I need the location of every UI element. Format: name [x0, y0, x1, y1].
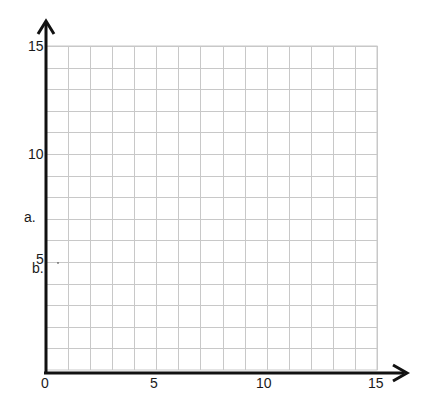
stray-mark [57, 262, 59, 264]
x-tick-15: 15 [368, 376, 384, 390]
annotation-a: a. [24, 210, 36, 224]
x-tick-10: 10 [256, 376, 272, 390]
y-tick-10: 10 [28, 147, 44, 161]
coordinate-grid-chart [0, 0, 426, 408]
grid-lines [46, 46, 378, 370]
y-tick-15: 15 [28, 39, 44, 53]
annotation-b: b. [32, 261, 44, 275]
grid-border [46, 46, 377, 370]
x-tick-5: 5 [150, 376, 158, 390]
x-tick-0: 0 [41, 376, 49, 390]
